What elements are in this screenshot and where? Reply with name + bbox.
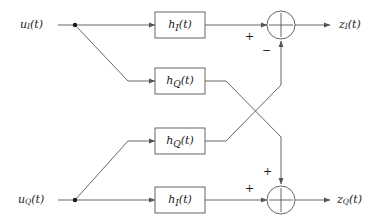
sign-top-summer-left-plus: + bbox=[245, 31, 254, 42]
input-label-uq-arg: (t) bbox=[31, 193, 44, 206]
block-label-hi-top-arg: (t) bbox=[179, 18, 192, 31]
junction-dot-uq bbox=[73, 198, 77, 202]
input-label-uq: uQ(t) bbox=[18, 194, 44, 206]
wire-cross-down bbox=[226, 81, 281, 137]
junction-dot-ui bbox=[73, 23, 77, 27]
block-label-hq-lower-arg: (t) bbox=[181, 134, 194, 147]
block-label-hi-top: hI(t) bbox=[155, 19, 205, 32]
block-label-hi-bottom-arg: (t) bbox=[179, 193, 192, 206]
wire-ui-branch-diagonal bbox=[75, 25, 128, 81]
sign-top-summer-bottom-minus: − bbox=[262, 45, 271, 56]
input-label-ui-arg: (t) bbox=[30, 18, 43, 31]
output-label-zi: zI(t) bbox=[339, 19, 361, 31]
block-label-hq-upper-arg: (t) bbox=[181, 74, 194, 87]
output-label-zq: zQ(t) bbox=[337, 194, 362, 206]
block-label-hq-lower: hQ(t) bbox=[155, 135, 205, 148]
block-label-hi-bottom: hI(t) bbox=[155, 194, 205, 207]
block-diagram-canvas: uI(t) uQ(t) zI(t) zQ(t) hI(t) hQ(t) hQ(t… bbox=[0, 0, 392, 224]
block-label-hq-lower-sub: Q bbox=[173, 138, 181, 149]
sign-bottom-summer-left-plus: + bbox=[245, 183, 254, 194]
input-label-ui: uI(t) bbox=[20, 19, 43, 31]
wire-uq-branch-diagonal bbox=[75, 141, 128, 200]
output-label-zi-arg: (t) bbox=[348, 18, 361, 31]
sign-bottom-summer-top-plus: + bbox=[263, 166, 272, 177]
output-label-zq-arg: (t) bbox=[349, 193, 362, 206]
block-label-hq-upper: hQ(t) bbox=[155, 75, 205, 88]
block-label-hq-upper-sub: Q bbox=[173, 78, 181, 89]
diagram-wires bbox=[0, 0, 392, 224]
wire-cross-up bbox=[226, 85, 281, 141]
